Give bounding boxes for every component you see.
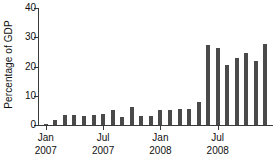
- x-axis-tick-label: Jul2007: [83, 132, 123, 157]
- x-axis-tick-label-year: 2008: [198, 145, 238, 158]
- x-axis-tick-label: Jan2008: [140, 132, 180, 157]
- bar: [235, 58, 239, 125]
- bar: [130, 107, 134, 125]
- x-axis-tick-label: Jul2008: [198, 132, 238, 157]
- x-axis-tick-mark: [103, 126, 104, 130]
- bar: [244, 53, 248, 125]
- bar: [63, 115, 67, 125]
- bars-layer: [38, 6, 273, 125]
- y-axis-title: Percentage of GDP: [0, 0, 16, 128]
- bar-chart: Percentage of GDP 010203040 Jan2007Jul20…: [0, 0, 275, 158]
- x-axis-tick-label-month: Jul: [83, 132, 123, 145]
- y-axis-tick-label: 20: [25, 61, 36, 72]
- bar: [149, 116, 153, 125]
- y-axis-tick-label: 10: [25, 90, 36, 101]
- bar: [44, 124, 48, 125]
- bar: [120, 117, 124, 125]
- bar: [225, 65, 229, 125]
- bar: [82, 116, 86, 125]
- y-axis-title-text: Percentage of GDP: [3, 20, 14, 108]
- bar: [168, 110, 172, 126]
- x-axis-tick-label-month: Jan: [26, 132, 66, 145]
- bar: [206, 45, 210, 125]
- bar: [254, 61, 258, 125]
- bar: [216, 48, 220, 126]
- x-axis-tick-label-month: Jul: [198, 132, 238, 145]
- x-axis-tick-label: Jan2007: [26, 132, 66, 157]
- x-axis-tick-label-year: 2008: [140, 145, 180, 158]
- bar: [72, 115, 76, 125]
- x-axis-line: [38, 125, 273, 126]
- plot-area: 010203040 Jan2007Jul2007Jan2008Jul2008: [38, 6, 273, 125]
- bar: [92, 115, 96, 125]
- y-axis-tick-label: 40: [25, 2, 36, 13]
- x-axis-tick-mark: [46, 126, 47, 130]
- bar: [263, 44, 267, 125]
- bar: [178, 109, 182, 125]
- bar: [158, 110, 162, 126]
- x-axis-tick-label-month: Jan: [140, 132, 180, 145]
- bar: [197, 102, 201, 125]
- bar: [187, 109, 191, 125]
- bar: [139, 116, 143, 125]
- x-axis-tick-mark: [218, 126, 219, 130]
- bar: [53, 120, 57, 125]
- y-axis-tick-label: 0: [30, 119, 36, 130]
- y-axis-tick-label: 30: [25, 31, 36, 42]
- x-axis-tick-label-year: 2007: [83, 145, 123, 158]
- x-axis-tick-mark: [160, 126, 161, 130]
- x-axis-tick-label-year: 2007: [26, 145, 66, 158]
- bar: [111, 110, 115, 125]
- bar: [101, 114, 105, 125]
